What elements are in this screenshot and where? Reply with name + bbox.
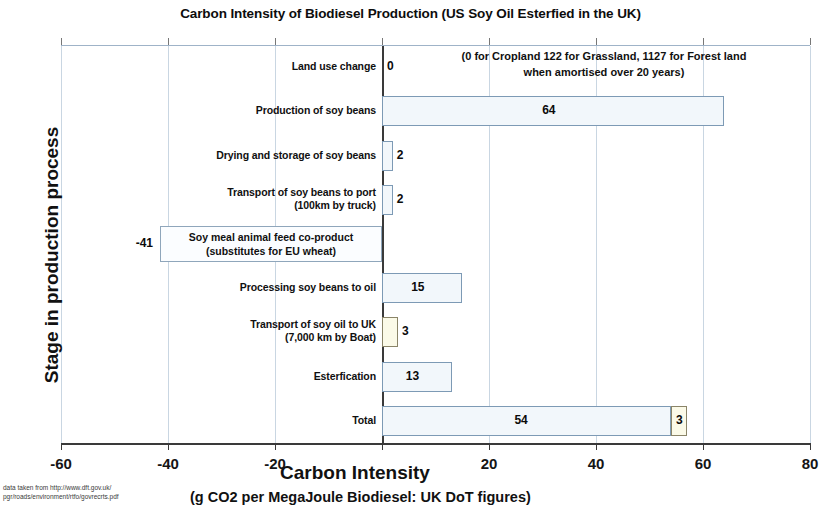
bar-value-label: -41 bbox=[136, 236, 153, 250]
bar-value-label: 3 bbox=[676, 413, 683, 427]
x-axis-tick-label: -60 bbox=[31, 455, 91, 472]
x-axis-tick-top bbox=[168, 38, 169, 45]
category-label: Land use change bbox=[56, 60, 376, 73]
chart-title: Carbon Intensity of Biodiesel Production… bbox=[0, 6, 821, 21]
x-axis-tick-top bbox=[61, 38, 62, 45]
x-axis-tick-label: 80 bbox=[780, 455, 821, 472]
bar-value-label: 15 bbox=[411, 280, 424, 294]
bar-value-label: 64 bbox=[542, 103, 555, 117]
land-use-annotation: (0 for Cropland 122 for Grassland, 1127 … bbox=[398, 48, 810, 80]
category-label: Transport of soy oil to UK (7,000 km by … bbox=[56, 318, 376, 344]
source-note: data taken from http://www.dft.gov.uk/ p… bbox=[3, 483, 193, 501]
category-label: Processing soy beans to oil bbox=[56, 281, 376, 294]
x-axis-tick-top bbox=[703, 38, 704, 45]
x-axis-tick bbox=[596, 443, 597, 450]
category-label: Transport of soy beans to port (100km by… bbox=[56, 186, 376, 212]
x-axis-tick-label: -40 bbox=[138, 455, 198, 472]
category-label: Esterfication bbox=[56, 370, 376, 383]
x-axis-tick-top bbox=[275, 38, 276, 45]
category-label: Production of soy beans bbox=[56, 104, 376, 117]
bar-value-label: 54 bbox=[514, 413, 527, 427]
category-label: Drying and storage of soy beans bbox=[56, 149, 376, 162]
bar-value-label: 2 bbox=[397, 192, 404, 206]
bar-value-label: 13 bbox=[406, 369, 419, 383]
x-axis-tick bbox=[489, 443, 490, 450]
x-axis-tick-label: 40 bbox=[566, 455, 626, 472]
x-axis-tick-top bbox=[382, 38, 383, 45]
category-label-boxed: Soy meal animal feed co-product (substit… bbox=[160, 226, 382, 262]
bar-value-label: 3 bbox=[402, 324, 409, 338]
x-axis-tick bbox=[275, 443, 276, 450]
category-label: Total bbox=[56, 414, 376, 427]
x-axis-tick bbox=[168, 443, 169, 450]
x-axis-tick-top bbox=[489, 38, 490, 45]
x-axis-tick bbox=[382, 443, 383, 450]
bar-value-label: 0 bbox=[387, 59, 394, 73]
x-axis-tick-top bbox=[596, 38, 597, 45]
bar bbox=[382, 141, 393, 171]
x-axis-subtitle: (g CO2 per MegaJoule Biodiesel: UK DoT f… bbox=[190, 489, 531, 505]
x-axis-tick-label: 60 bbox=[673, 455, 733, 472]
x-axis-tick-top bbox=[810, 38, 811, 45]
bar bbox=[382, 185, 393, 215]
bar-value-label: 2 bbox=[397, 148, 404, 162]
x-axis-tick bbox=[703, 443, 704, 450]
x-axis-line bbox=[61, 443, 810, 445]
gridline bbox=[810, 46, 811, 443]
x-axis-tick-label: -20 bbox=[245, 455, 305, 472]
x-axis-tick bbox=[61, 443, 62, 450]
x-axis-tick bbox=[810, 443, 811, 450]
bar bbox=[382, 317, 398, 347]
x-axis-tick-label: 20 bbox=[459, 455, 519, 472]
